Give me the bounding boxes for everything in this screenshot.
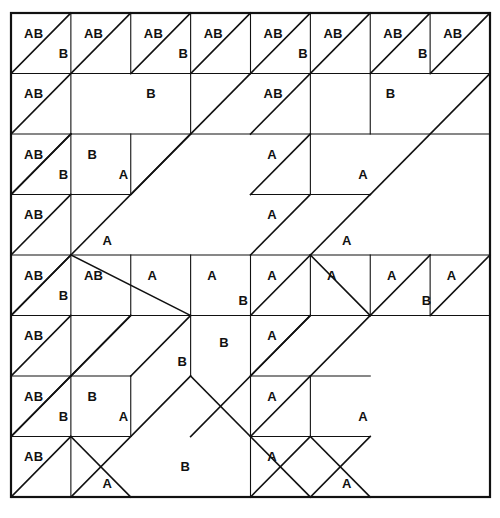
label-r3c1-ab: AB [24, 147, 43, 162]
label-r1c8-ab: AB [443, 26, 462, 41]
label-r1c1-b: B [59, 46, 69, 61]
label-r2c1-ab: AB [24, 86, 43, 101]
label-r1c7-b: B [418, 46, 428, 61]
cell-labels-group: ABBABABBABABBABABBABABBABBABBBAAAABAAAAB… [24, 26, 463, 491]
label-r3c1-b: B [59, 167, 69, 182]
label-r4c1-ab: AB [24, 207, 43, 222]
label-r8c3-b: B [180, 459, 190, 474]
label-r5c7-a: A [387, 268, 397, 283]
label-r3c2-a: A [119, 167, 129, 182]
diag-r6c0 [11, 376, 71, 437]
label-r7c5-a: A [267, 389, 277, 404]
diag-r2c5 [310, 195, 370, 256]
label-r8c6-a: A [342, 476, 352, 491]
label-r1c3-ab: AB [144, 26, 163, 41]
label-r5c8-b: B [422, 293, 432, 308]
diag-r4c4 [251, 316, 311, 377]
diag-r4c7 [430, 255, 490, 316]
diag-r0c3-upper [191, 13, 251, 74]
diag-r0c2 [131, 13, 191, 74]
label-r5c1-b: B [59, 288, 69, 303]
label-r8c2-a: A [103, 476, 113, 491]
label-r7c1-ab: AB [24, 389, 43, 404]
tiling-svg: ABBABABBABABBABABBABABBABBABBBAAAABAAAAB… [0, 0, 500, 518]
label-r2c3-b: B [146, 86, 156, 101]
label-r5c2-ab: AB [84, 268, 103, 283]
diag-r5c4 [251, 376, 311, 437]
label-r6c1-ab: AB [24, 328, 43, 343]
label-r3c2-b: B [88, 147, 98, 162]
diag-r2c4 [251, 195, 311, 256]
diag-r0c7-upper [430, 13, 490, 74]
label-r7c1-b: B [59, 409, 69, 424]
label-r5c5-a: A [267, 268, 277, 283]
diag-r2c0b [11, 195, 71, 256]
label-r6c3-b: B [177, 354, 187, 369]
diag-r0c0 [11, 13, 71, 74]
label-r1c4-ab: AB [204, 26, 223, 41]
label-r1c1-ab: AB [24, 26, 43, 41]
label-r5c4-a: A [207, 268, 217, 283]
label-r1c5-ab: AB [264, 26, 283, 41]
label-r6c4-b: B [219, 335, 229, 350]
diag-r4c5 [310, 316, 370, 377]
label-r3c5-a: A [267, 147, 277, 162]
label-r1c7-ab: AB [383, 26, 402, 41]
label-r8c5-a: A [267, 449, 277, 464]
diag-r0c4 [251, 13, 311, 74]
label-r4c6-a: A [342, 233, 352, 248]
tiling-figure: ABBABABBABABBABABBABABBABBABBBAAAABAAAAB… [0, 0, 500, 518]
diag-r4c0b [11, 316, 71, 377]
label-r6c5-a: A [267, 328, 277, 343]
label-r3c6-a: A [358, 167, 368, 182]
label-r7c2-b: B [88, 389, 98, 404]
label-r5c4-b: B [238, 293, 248, 308]
label-r4c5-a: A [267, 207, 277, 222]
label-r5c3-a: A [147, 268, 157, 283]
label-r1c2-ab: AB [84, 26, 103, 41]
label-r7c2-a: A [119, 409, 129, 424]
diag-r4c0 [11, 255, 71, 316]
label-r4c2-a: A [103, 233, 113, 248]
label-r1c6-ab: AB [323, 26, 342, 41]
diag-r6c0b [11, 437, 71, 498]
label-r1c5-b: B [298, 46, 308, 61]
diag-r3c5-down [310, 255, 370, 316]
diag-r2c0 [11, 134, 71, 195]
diag-r0c6 [370, 13, 430, 74]
label-r5c6-a: A [327, 268, 337, 283]
label-r2c5-ab: AB [264, 86, 283, 101]
label-r7c6-a: A [358, 409, 368, 424]
diag-r3c4 [251, 255, 311, 316]
label-r8c1-ab: AB [24, 449, 43, 464]
label-r2c7-b: B [386, 86, 396, 101]
label-r5c1-ab: AB [24, 268, 43, 283]
diag-r1c4 [251, 134, 311, 195]
label-r1c3-b: B [179, 46, 189, 61]
label-r5c8-a: A [447, 268, 457, 283]
